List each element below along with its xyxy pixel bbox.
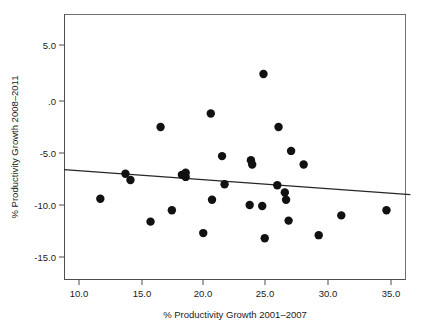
chart-canvas: 5.0 .0 -5.0 -10.0 -15.0 10.0 15.0 20.0 2… (0, 0, 422, 334)
y-axis: 5.0 .0 -5.0 -10.0 -15.0 (34, 15, 64, 280)
data-point (96, 195, 104, 203)
data-point (261, 234, 269, 242)
x-tick-label: 15.0 (133, 288, 152, 299)
data-point (126, 176, 134, 184)
data-point (168, 206, 176, 214)
data-point (282, 196, 290, 204)
data-point (156, 123, 164, 131)
data-point (281, 188, 289, 196)
x-tick-label: 35.0 (382, 288, 401, 299)
data-point (208, 196, 216, 204)
y-tick-label: .0 (48, 96, 56, 107)
data-point (299, 160, 307, 168)
data-point (220, 180, 228, 188)
y-tick-label: -5.0 (40, 148, 56, 159)
data-point (207, 109, 215, 117)
data-point (337, 211, 345, 219)
data-point (259, 70, 267, 78)
x-tick-label: 20.0 (194, 288, 213, 299)
data-point (284, 216, 292, 224)
x-axis: 10.0 15.0 20.0 25.0 30.0 35.0 (65, 280, 406, 300)
y-axis-title: % Productivity Growth 2008–2011 (9, 76, 20, 219)
data-point (274, 123, 282, 131)
data-point (248, 160, 256, 168)
data-point (273, 181, 281, 189)
plot-area-frame (65, 15, 406, 280)
data-point (287, 147, 295, 155)
y-tick-label: 5.0 (43, 40, 56, 51)
data-point (245, 201, 253, 209)
data-point (258, 202, 266, 210)
x-tick-label: 10.0 (70, 288, 89, 299)
data-point (315, 231, 323, 239)
x-tick-label: 30.0 (319, 288, 338, 299)
data-point (218, 152, 226, 160)
x-tick-label: 25.0 (256, 288, 275, 299)
scatter-plot-figure: 5.0 .0 -5.0 -10.0 -15.0 10.0 15.0 20.0 2… (0, 0, 422, 334)
x-axis-title: % Productivity Growth 2001–2007 (163, 309, 307, 320)
data-point (382, 206, 390, 214)
y-tick-label: -10.0 (34, 200, 56, 211)
y-tick-label: -15.0 (34, 252, 56, 263)
data-point (199, 229, 207, 237)
data-point (181, 173, 189, 181)
data-point (146, 217, 154, 225)
